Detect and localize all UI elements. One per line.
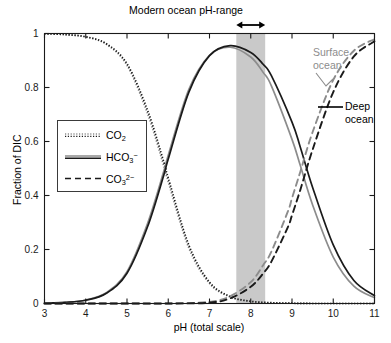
surface-ocean-annotation-line2: ocean — [313, 60, 342, 71]
deep-ocean-annotation-line2: ocean — [345, 114, 374, 125]
legend-label-hco3: HCO3− — [106, 152, 138, 164]
y-tick-label: 0 — [33, 299, 39, 309]
y-tick-label: 0.4 — [25, 191, 39, 201]
x-tick-label: 9 — [289, 309, 295, 319]
x-axis-title: pH (total scale) — [174, 322, 245, 333]
bjerrum-plot-figure: Modern ocean pH-range Fraction of DIC pH… — [0, 0, 391, 343]
legend: CO2 HCO3− CO32− — [57, 120, 147, 192]
x-tick-label: 8 — [248, 309, 254, 319]
legend-label-co2: CO2 — [106, 130, 126, 142]
y-axis-title: Fraction of DIC — [12, 134, 23, 205]
modern-ph-range-band — [236, 34, 265, 304]
x-tick-label: 7 — [207, 309, 213, 319]
surface-ocean-leader-line — [316, 73, 333, 86]
x-tick-label: 3 — [42, 309, 48, 319]
x-tick-label: 5 — [124, 309, 130, 319]
y-tick-label: 0.8 — [25, 83, 39, 93]
legend-label-co3: CO32− — [106, 174, 134, 186]
ph-range-arrow-head-left — [236, 21, 242, 28]
x-tick-label: 11 — [369, 309, 379, 319]
ph-range-arrow-head-right — [259, 21, 265, 28]
x-tick-label: 10 — [328, 309, 339, 319]
x-tick-label: 4 — [83, 309, 89, 319]
x-tick-label: 6 — [165, 309, 171, 319]
y-tick-label: 0.6 — [25, 137, 39, 147]
y-tick-label: 1 — [33, 29, 39, 39]
y-tick-label: 0.2 — [25, 245, 39, 255]
deep-ocean-annotation-line1: Deep — [345, 101, 370, 112]
surface-ocean-annotation-line1: Surface — [313, 47, 349, 58]
